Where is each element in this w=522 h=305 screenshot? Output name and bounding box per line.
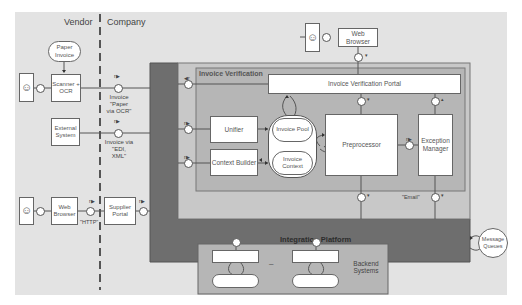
interface-circle [184,125,193,134]
interface-circle [354,53,363,62]
svg-text:r▶: r▶ [114,73,120,79]
http-label: "HTTP" [80,219,98,225]
web-browser-node: Web Browser [51,197,78,225]
paper-invoice-node: Paper Invoice [48,41,81,62]
scanner-ocr-node: Scanner + OCR [51,74,81,102]
interface-circle [184,159,193,168]
external-system-node: External System [51,118,80,146]
interface-circle [36,84,45,93]
zone-label-company: Company [107,17,146,27]
interface-circle [114,129,123,138]
message-queues-node: Message Queues [478,228,508,258]
user-actor-icon: ☺ [305,23,320,52]
supplier-portal-node: Supplier Portal [104,197,136,225]
label-line: via OCR" [104,108,134,115]
invoice-pool-node: Invoice Pool [272,118,313,142]
interface-circle [184,80,193,89]
invoice-context-node: Invoice Context [272,151,313,175]
svg-text:▴: ▴ [441,96,444,102]
svg-text:r▶: r▶ [114,118,120,124]
interface-circle [322,33,331,42]
label-line: Invoice [104,94,134,101]
context-builder-node: Context Builder [210,149,258,176]
backend-system-node [292,250,339,263]
exception-manager-node: Exception Manager [418,114,453,176]
unifier-node: Unifier [210,116,258,143]
svg-text:▾: ▾ [367,192,370,198]
svg-text:▾: ▾ [441,192,444,198]
invoice-verification-portal-node: Invoice Verification Portal [268,74,461,94]
backend-system-node [212,250,259,263]
interface-circle [86,207,95,216]
label-line: "Paper [104,101,134,108]
backend-storage-node [292,274,339,288]
label-line: "EDI, [102,146,136,153]
svg-text:r▶: r▶ [89,198,95,204]
user-actor-icon: ☺ [19,197,34,225]
label-line: XML" [102,153,136,160]
interface-circle [357,193,366,202]
architecture-diagram: r▶ r▶ r▶ r▶ ◀r r▶ r▶ r▶ ▾ ▾ ▴ ▾ ▾ Vendor… [0,0,522,305]
email-label: "Email" [402,194,420,200]
interface-circle [232,238,241,247]
label-line: Invoice via [102,139,136,146]
interface-circle [312,238,321,247]
user-actor-icon: ☺ [19,73,34,102]
interface-circle [431,97,440,106]
invoice-verification-title: Invoice Verification [199,70,263,78]
interface-circle [405,141,414,150]
backend-systems-title: Backend Systems [348,260,384,275]
edi-channel-label: Invoice via "EDI, XML" [102,139,136,160]
backend-storage-node [212,274,259,288]
preprocessor-node: Preprocessor [325,114,398,176]
svg-text:r▶: r▶ [139,198,145,204]
paper-channel-label: Invoice "Paper via OCR" [104,94,134,115]
zone-label-vendor: Vendor [64,17,93,27]
interface-circle [36,207,45,216]
interface-circle [357,97,366,106]
interface-circle [139,207,148,216]
svg-text:▾: ▾ [367,96,370,102]
backend-separator: – [269,259,273,268]
interface-circle [431,193,440,202]
interface-circle [114,84,123,93]
web-browser-top-node: Web Browser [338,28,378,47]
svg-text:▾: ▾ [365,52,368,58]
